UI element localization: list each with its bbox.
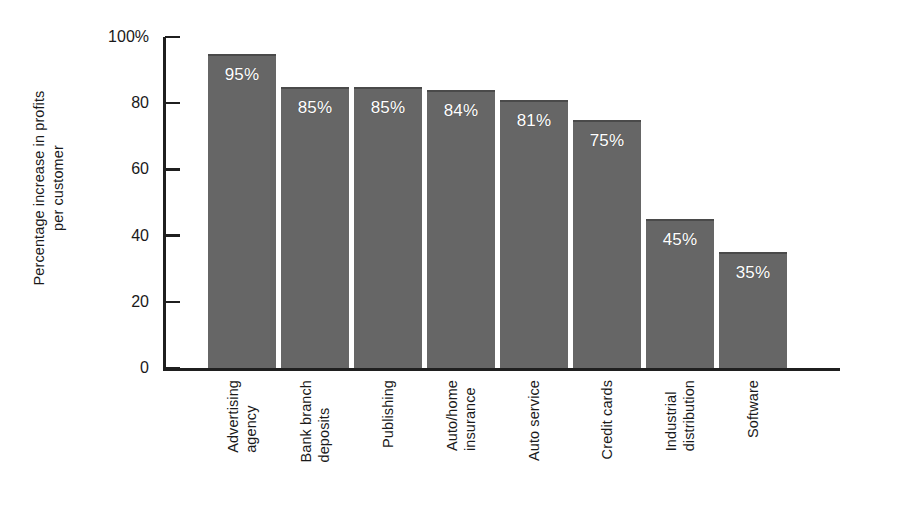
y-tick-40: 40 (163, 234, 180, 237)
bar-value-label: 75% (573, 131, 641, 151)
y-tick-label: 100% (108, 28, 149, 46)
x-category-label-line: Software (744, 380, 762, 438)
bar: 95% (208, 54, 276, 368)
bar-column: 84% (427, 37, 495, 368)
y-tick-label: 20 (131, 293, 149, 311)
y-tick-80: 80 (163, 102, 180, 105)
y-axis-line (163, 37, 166, 368)
y-tick-mark (165, 301, 180, 304)
bar-column: 95% (208, 37, 276, 368)
bar-column: 85% (281, 37, 349, 368)
bar-series: 95%85%85%84%81%75%45%35% (208, 37, 787, 368)
x-category-label-line: Bank branch (297, 380, 315, 463)
y-tick-mark (165, 36, 180, 39)
x-category-label: Advertisingagency (208, 374, 276, 515)
y-tick-mark (165, 367, 180, 370)
y-tick-mark (165, 234, 180, 237)
bar: 35% (719, 252, 787, 368)
x-category-label: Publishing (354, 374, 422, 515)
x-category-label-line: Auto/home (443, 380, 461, 451)
x-category-label-line: distribution (680, 380, 698, 451)
bar-column: 35% (719, 37, 787, 368)
y-tick-60: 60 (163, 168, 180, 171)
x-axis-category-labels: AdvertisingagencyBank branchdepositsPubl… (163, 374, 840, 515)
x-category-label: Auto/homeinsurance (427, 374, 495, 515)
y-tick-20: 20 (163, 301, 180, 304)
x-category-label-line: Auto service (525, 380, 543, 461)
x-category-label-line: Publishing (379, 380, 397, 448)
bar-column: 81% (500, 37, 568, 368)
bar: 45% (646, 219, 714, 368)
y-tick-label: 40 (131, 227, 149, 245)
bar: 84% (427, 90, 495, 368)
y-axis-title-line-1: Percentage increase in profits (30, 91, 49, 286)
bar-column: 45% (646, 37, 714, 368)
x-category-label-line: agency (242, 405, 260, 452)
plot-area: 020406080100% 95%85%85%84%81%75%45%35% (163, 37, 840, 368)
bar: 75% (573, 120, 641, 368)
bar-value-label: 85% (281, 98, 349, 118)
x-category-label-line: deposits (315, 408, 333, 463)
x-category-label-line: Advertising (224, 380, 242, 453)
bar-value-label: 85% (354, 98, 422, 118)
y-axis-title-line-2: per customer (49, 145, 68, 231)
x-category-label-line: Industrial (662, 391, 680, 451)
y-axis-title: Percentage increase in profits per custo… (30, 0, 90, 378)
x-category-label: Bank branchdeposits (281, 374, 349, 515)
x-category-label: Auto service (500, 374, 568, 515)
y-tick-0: 0 (163, 367, 180, 370)
x-category-label: Software (719, 374, 787, 515)
y-tick-label: 80 (131, 94, 149, 112)
bar-value-label: 84% (427, 101, 495, 121)
bar-value-label: 35% (719, 263, 787, 283)
y-tick-label: 0 (140, 359, 149, 377)
bar: 85% (354, 87, 422, 368)
x-category-label-line: insurance (461, 387, 479, 451)
y-tick-label: 60 (131, 160, 149, 178)
y-tick-mark (165, 102, 180, 105)
x-axis-baseline (163, 368, 840, 371)
bar-column: 75% (573, 37, 641, 368)
y-tick-100: 100% (163, 36, 180, 39)
bar-value-label: 81% (500, 111, 568, 131)
bar: 81% (500, 100, 568, 368)
x-category-label: Credit cards (573, 374, 641, 515)
bar-value-label: 45% (646, 230, 714, 250)
bar: 85% (281, 87, 349, 368)
x-category-label: Industrialdistribution (646, 374, 714, 515)
bar-value-label: 95% (208, 65, 276, 85)
y-tick-mark (165, 168, 180, 171)
bar-chart-figure: Percentage increase in profits per custo… (0, 0, 899, 515)
bar-column: 85% (354, 37, 422, 368)
x-category-label-line: Credit cards (598, 380, 616, 459)
